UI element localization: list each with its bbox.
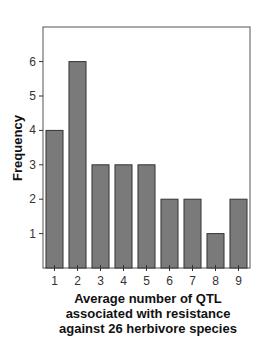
bar-7	[184, 199, 201, 268]
bar-9	[230, 199, 247, 268]
y-tick-label: 6	[29, 55, 36, 69]
bar-8	[207, 234, 224, 268]
x-tick-label: 4	[120, 274, 127, 288]
bar-4	[115, 165, 132, 268]
x-tick-label: 7	[189, 274, 196, 288]
y-tick-label: 5	[29, 89, 36, 103]
x-axis-title: Average number of QTLassociated with res…	[59, 291, 237, 336]
bar-5	[138, 165, 155, 268]
y-tick-label: 1	[29, 227, 36, 241]
x-tick-label: 3	[97, 274, 104, 288]
bar-2	[69, 62, 86, 268]
x-tick-label: 6	[166, 274, 173, 288]
x-axis-title-line: against 26 herbivore species	[59, 321, 237, 336]
x-axis-title-line: Average number of QTL	[74, 291, 222, 306]
bar-6	[161, 199, 178, 268]
bar-1	[46, 130, 63, 268]
x-tick-label: 9	[235, 274, 242, 288]
y-axis-title: Frequency	[10, 114, 25, 181]
y-tick-label: 2	[29, 192, 36, 206]
y-axis-ticks: 123456	[29, 55, 43, 241]
bar-chart: 123456 123456789 Frequency Average numbe…	[0, 0, 271, 342]
x-tick-label: 1	[51, 274, 58, 288]
y-tick-label: 3	[29, 158, 36, 172]
y-tick-label: 4	[29, 123, 36, 137]
x-tick-label: 5	[143, 274, 150, 288]
bar-3	[92, 165, 109, 268]
plot-area: 123456 123456789	[29, 27, 250, 288]
x-tick-label: 8	[212, 274, 219, 288]
x-tick-label: 2	[74, 274, 81, 288]
x-axis-title-line: associated with resistance	[66, 306, 231, 321]
